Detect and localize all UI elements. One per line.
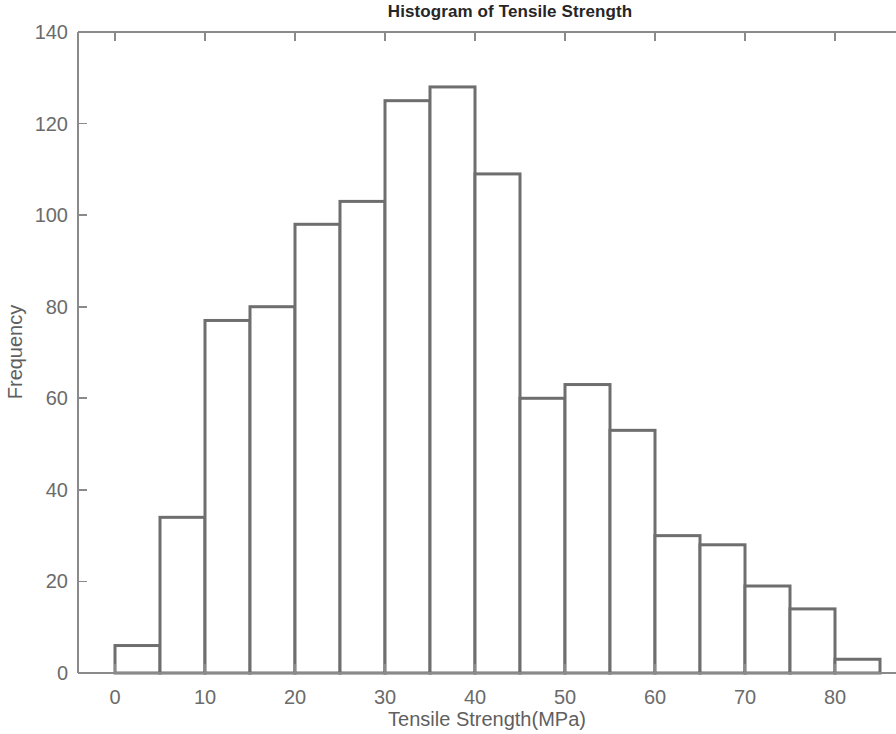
histogram-bar bbox=[385, 101, 430, 673]
x-axis-title: Tensile Strength(MPa) bbox=[388, 708, 586, 730]
histogram-bar bbox=[565, 385, 610, 673]
histogram-bar bbox=[835, 659, 880, 673]
histogram-bar bbox=[115, 646, 160, 673]
x-tick-label: 0 bbox=[109, 686, 120, 708]
x-tick-label: 10 bbox=[194, 686, 216, 708]
histogram-bar bbox=[745, 586, 790, 673]
y-axis-ticks: 020406080100120140 bbox=[35, 21, 87, 684]
histogram-bar bbox=[520, 398, 565, 673]
histogram-bar bbox=[430, 87, 475, 673]
histogram-bar bbox=[700, 545, 745, 673]
histogram-bar bbox=[250, 307, 295, 673]
x-tick-label: 40 bbox=[464, 686, 486, 708]
histogram-bar bbox=[205, 320, 250, 673]
x-tick-label: 30 bbox=[374, 686, 396, 708]
y-tick-label: 40 bbox=[46, 479, 68, 501]
x-tick-label: 50 bbox=[554, 686, 576, 708]
histogram-bar bbox=[790, 609, 835, 673]
histogram-bar bbox=[295, 224, 340, 673]
histogram-bar bbox=[655, 536, 700, 673]
y-tick-label: 20 bbox=[46, 570, 68, 592]
y-tick-label: 0 bbox=[57, 662, 68, 684]
x-tick-label: 60 bbox=[644, 686, 666, 708]
histogram-figure: Histogram of Tensile Strength 0102030405… bbox=[0, 0, 896, 734]
x-tick-label: 20 bbox=[284, 686, 306, 708]
plot-area: 01020304050607080 020406080100120140 Ten… bbox=[0, 0, 896, 734]
x-tick-label: 70 bbox=[734, 686, 756, 708]
histogram-bar bbox=[160, 517, 205, 673]
y-tick-label: 140 bbox=[35, 21, 68, 43]
x-tick-label: 80 bbox=[824, 686, 846, 708]
bars-group bbox=[115, 87, 880, 673]
y-axis-title: Frequency bbox=[4, 305, 26, 400]
histogram-bar bbox=[340, 201, 385, 673]
histogram-bar bbox=[610, 430, 655, 673]
y-tick-label: 120 bbox=[35, 113, 68, 135]
y-tick-label: 100 bbox=[35, 204, 68, 226]
y-tick-label: 60 bbox=[46, 387, 68, 409]
y-tick-label: 80 bbox=[46, 296, 68, 318]
histogram-bar bbox=[475, 174, 520, 673]
